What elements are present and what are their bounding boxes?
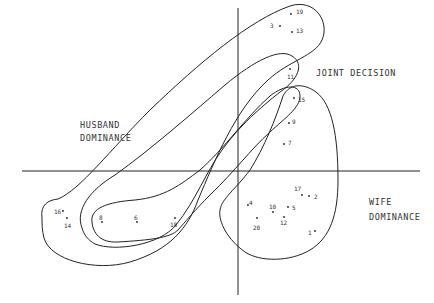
wife-label-line1: WIFE <box>369 197 392 207</box>
data-point-marker <box>283 216 285 218</box>
data-point-label: 19 <box>296 8 303 15</box>
data-point-label: 4 <box>249 199 253 206</box>
data-point-marker <box>291 31 293 33</box>
data-point-label: 1 <box>308 229 312 236</box>
data-point-marker <box>101 221 103 223</box>
data-point-marker <box>287 206 289 208</box>
data-point-label: 18 <box>170 221 177 228</box>
data-point-label: 15 <box>298 96 305 103</box>
data-point-label: 3 <box>270 22 274 29</box>
data-point-label: 8 <box>99 214 103 221</box>
data-point-marker <box>272 211 274 213</box>
data-point-label: 10 <box>269 203 276 210</box>
data-point-label: 17 <box>294 185 301 192</box>
wife-label-line2: DOMINANCE <box>369 212 420 222</box>
data-point-label: 6 <box>134 214 138 221</box>
wife-contour <box>220 86 338 260</box>
data-point-label: 20 <box>253 224 260 231</box>
data-point-marker <box>308 195 310 197</box>
data-point-marker <box>283 143 285 145</box>
data-point-label: 5 <box>292 204 296 211</box>
data-point-label: 2 <box>314 193 318 200</box>
data-point-label: 14 <box>64 222 71 229</box>
data-point-label: 9 <box>292 118 296 125</box>
data-point-marker <box>314 230 316 232</box>
data-point-marker <box>279 25 281 27</box>
data-point-label: 12 <box>280 219 287 226</box>
data-point-marker <box>174 217 176 219</box>
diagram-canvas <box>0 0 434 303</box>
data-point-label: 13 <box>296 27 303 34</box>
data-point-marker <box>66 217 68 219</box>
data-point-marker <box>293 97 295 99</box>
data-point-marker <box>290 13 292 15</box>
data-point-marker <box>288 122 290 124</box>
data-point-marker <box>62 210 64 212</box>
data-point-label: 7 <box>288 139 292 146</box>
data-point-marker <box>289 68 291 70</box>
data-point-label: 11 <box>287 73 294 80</box>
joint-decision-label: JOINT DECISION <box>316 68 396 78</box>
data-point-marker <box>301 194 303 196</box>
data-point-label: 16 <box>54 208 61 215</box>
data-point-marker <box>256 217 258 219</box>
husband-label-line2: DOMINANCE <box>80 133 131 143</box>
data-point-marker <box>136 221 138 223</box>
husband-label-line1: HUSBAND <box>80 120 120 130</box>
